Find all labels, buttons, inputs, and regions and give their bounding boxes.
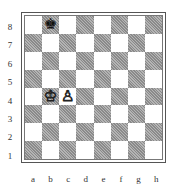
chess-board: ♚♔♙ bbox=[24, 15, 163, 160]
square-d2[interactable] bbox=[76, 123, 93, 141]
square-d3[interactable] bbox=[76, 105, 93, 123]
square-c6[interactable] bbox=[59, 52, 76, 70]
square-d7[interactable] bbox=[76, 34, 93, 52]
square-c8[interactable] bbox=[59, 16, 76, 34]
square-c4[interactable]: ♙ bbox=[59, 88, 76, 106]
square-g7[interactable] bbox=[128, 34, 145, 52]
square-d4[interactable] bbox=[76, 88, 93, 106]
square-f6[interactable] bbox=[111, 52, 128, 70]
square-a7[interactable] bbox=[25, 34, 42, 52]
square-e2[interactable] bbox=[94, 123, 111, 141]
square-e8[interactable] bbox=[94, 16, 111, 34]
rank-label-3: 3 bbox=[6, 114, 14, 124]
square-a3[interactable] bbox=[25, 105, 42, 123]
square-f7[interactable] bbox=[111, 34, 128, 52]
square-b3[interactable] bbox=[42, 105, 59, 123]
square-b2[interactable] bbox=[42, 123, 59, 141]
square-a1[interactable] bbox=[25, 141, 42, 159]
file-label-g: g bbox=[130, 174, 148, 184]
rank-label-6: 6 bbox=[6, 59, 14, 69]
file-label-d: d bbox=[77, 174, 95, 184]
square-d1[interactable] bbox=[76, 141, 93, 159]
square-f2[interactable] bbox=[111, 123, 128, 141]
rank-label-7: 7 bbox=[6, 40, 14, 50]
square-d6[interactable] bbox=[76, 52, 93, 70]
square-b7[interactable] bbox=[42, 34, 59, 52]
file-label-a: a bbox=[24, 174, 42, 184]
square-h5[interactable] bbox=[145, 70, 162, 88]
square-h6[interactable] bbox=[145, 52, 162, 70]
square-b4[interactable]: ♔ bbox=[42, 88, 59, 106]
chess-board-frame: ♚♔♙ bbox=[21, 12, 166, 163]
square-d5[interactable] bbox=[76, 70, 93, 88]
square-a6[interactable] bbox=[25, 52, 42, 70]
white-king-icon[interactable]: ♔ bbox=[44, 89, 57, 104]
square-h3[interactable] bbox=[145, 105, 162, 123]
square-h4[interactable] bbox=[145, 88, 162, 106]
file-label-c: c bbox=[59, 174, 77, 184]
square-g8[interactable] bbox=[128, 16, 145, 34]
rank-label-8: 8 bbox=[6, 22, 14, 32]
rank-label-1: 1 bbox=[6, 151, 14, 161]
square-g6[interactable] bbox=[128, 52, 145, 70]
square-b1[interactable] bbox=[42, 141, 59, 159]
square-h8[interactable] bbox=[145, 16, 162, 34]
square-b5[interactable] bbox=[42, 70, 59, 88]
square-e4[interactable] bbox=[94, 88, 111, 106]
square-f5[interactable] bbox=[111, 70, 128, 88]
square-e3[interactable] bbox=[94, 105, 111, 123]
square-e7[interactable] bbox=[94, 34, 111, 52]
square-c1[interactable] bbox=[59, 141, 76, 159]
square-f1[interactable] bbox=[111, 141, 128, 159]
square-c7[interactable] bbox=[59, 34, 76, 52]
square-f4[interactable] bbox=[111, 88, 128, 106]
square-b6[interactable] bbox=[42, 52, 59, 70]
square-f8[interactable] bbox=[111, 16, 128, 34]
square-a2[interactable] bbox=[25, 123, 42, 141]
file-label-b: b bbox=[42, 174, 60, 184]
square-a8[interactable] bbox=[25, 16, 42, 34]
square-b8[interactable]: ♚ bbox=[42, 16, 59, 34]
square-e1[interactable] bbox=[94, 141, 111, 159]
rank-label-2: 2 bbox=[6, 132, 14, 142]
square-g1[interactable] bbox=[128, 141, 145, 159]
file-label-e: e bbox=[94, 174, 112, 184]
square-e5[interactable] bbox=[94, 70, 111, 88]
square-c2[interactable] bbox=[59, 123, 76, 141]
file-label-h: h bbox=[147, 174, 165, 184]
square-f3[interactable] bbox=[111, 105, 128, 123]
square-c3[interactable] bbox=[59, 105, 76, 123]
square-h1[interactable] bbox=[145, 141, 162, 159]
square-d8[interactable] bbox=[76, 16, 93, 34]
black-king-icon[interactable]: ♚ bbox=[44, 17, 57, 32]
square-g5[interactable] bbox=[128, 70, 145, 88]
square-g2[interactable] bbox=[128, 123, 145, 141]
square-h7[interactable] bbox=[145, 34, 162, 52]
square-h2[interactable] bbox=[145, 123, 162, 141]
file-label-f: f bbox=[112, 174, 130, 184]
square-a4[interactable] bbox=[25, 88, 42, 106]
square-g3[interactable] bbox=[128, 105, 145, 123]
rank-label-4: 4 bbox=[6, 96, 14, 106]
rank-label-5: 5 bbox=[6, 77, 14, 87]
square-e6[interactable] bbox=[94, 52, 111, 70]
square-a5[interactable] bbox=[25, 70, 42, 88]
square-c5[interactable] bbox=[59, 70, 76, 88]
white-pawn-icon[interactable]: ♙ bbox=[61, 89, 74, 104]
square-g4[interactable] bbox=[128, 88, 145, 106]
